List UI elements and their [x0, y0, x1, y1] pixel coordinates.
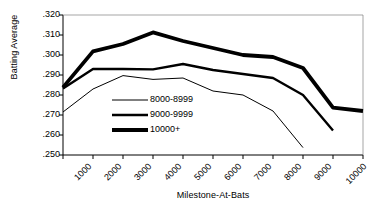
x-axis-tick-label: 8000	[283, 162, 304, 183]
x-axis-tick-label: 2000	[103, 162, 124, 183]
x-axis-tick-label: 10000	[344, 162, 368, 186]
x-axis-tick-labels: 1000200030004000500060007000800090001000…	[0, 0, 373, 210]
x-axis-tick-label: 3000	[133, 162, 154, 183]
chart-figure: Batting Average .320.310.300.290.280.270…	[0, 0, 373, 210]
x-axis-tick-label: 1000	[73, 162, 94, 183]
x-axis-tick-label: 5000	[193, 162, 214, 183]
x-axis-tick-label: 9000	[313, 162, 334, 183]
x-axis-title: Milestone-At-Bats	[63, 190, 363, 200]
legend-item-label: 10000+	[150, 125, 180, 134]
x-axis-tick-label: 6000	[223, 162, 244, 183]
legend-item-label: 9000-9999	[150, 110, 193, 119]
x-axis-tick-label: 7000	[253, 162, 274, 183]
x-axis-tick-label: 4000	[163, 162, 184, 183]
legend-item-label: 8000-8999	[150, 95, 193, 104]
